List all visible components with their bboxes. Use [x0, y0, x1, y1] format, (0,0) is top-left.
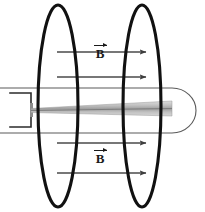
figure-canvas — [0, 0, 205, 212]
electron-beam-wedge — [31, 101, 172, 116]
magnetic-field-label-bottom: B — [89, 148, 111, 165]
magnetic-field-symbol-top: B — [89, 47, 111, 60]
vector-arrow-icon-top — [94, 43, 107, 48]
magnetic-field-symbol-bottom: B — [89, 152, 111, 165]
left-coil-ellipse — [38, 5, 78, 207]
vector-arrow-icon-bottom — [94, 148, 107, 153]
physics-figure-electron-beam-magnetic-field: B B — [0, 0, 205, 212]
magnetic-field-label-top: B — [89, 43, 111, 60]
electron-gun-bracket — [10, 93, 33, 127]
